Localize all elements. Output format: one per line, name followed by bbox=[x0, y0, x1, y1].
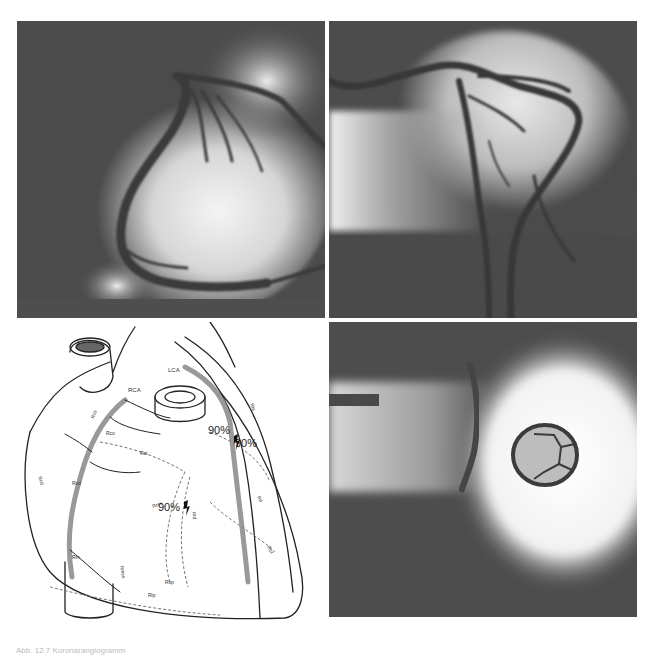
valve-ring bbox=[513, 425, 577, 485]
heart-diagram-panel: RCA LCA Rcs Rco Rct Rcd Rvd Rm Rmcs Rsp … bbox=[10, 322, 325, 622]
valve-radiograph-image bbox=[329, 322, 637, 617]
label-rid: Rid bbox=[191, 511, 198, 520]
label-rla: Rla bbox=[249, 402, 257, 411]
label-rd: Rd bbox=[256, 495, 265, 504]
angiogram-rca-image bbox=[17, 21, 325, 318]
label-rct: Rct bbox=[140, 450, 148, 456]
label-lca: LCA bbox=[168, 367, 180, 373]
label-rca: RCA bbox=[128, 387, 141, 393]
label-rip: Rip bbox=[148, 592, 156, 598]
label-rsp: Rsp bbox=[165, 579, 174, 585]
angiogram-lca-image bbox=[329, 21, 637, 318]
label-rmcs: Rmcs bbox=[119, 565, 127, 579]
label-rvd: Rvd bbox=[72, 480, 81, 486]
angiogram-lca-panel bbox=[329, 21, 637, 318]
label-rm: Rm bbox=[72, 554, 80, 560]
valve-radiograph-panel bbox=[329, 322, 637, 617]
angiogram-rca-panel bbox=[17, 21, 325, 318]
label-rcd: Rcd bbox=[37, 475, 46, 486]
label-rcx: Rcx bbox=[266, 545, 276, 556]
heart-diagram: RCA LCA Rcs Rco Rct Rcd Rvd Rm Rmcs Rsp … bbox=[10, 322, 325, 622]
stenosis-label-3: 90% bbox=[158, 501, 180, 513]
label-rco: Rco bbox=[106, 430, 115, 436]
stenosis-label-1: 90% bbox=[208, 424, 230, 436]
label-rcs: Rcs bbox=[89, 409, 98, 420]
figure-caption: Abb. 12.7 Koronarangiogramm bbox=[16, 646, 636, 658]
